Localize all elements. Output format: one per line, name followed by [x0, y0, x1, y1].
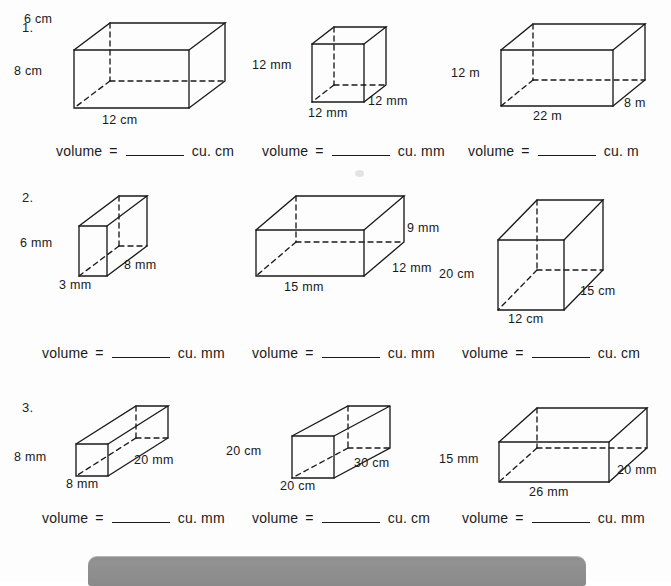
dim-label-depth: 12 mm [392, 261, 432, 275]
volume-unit: cu. m [604, 143, 639, 159]
figure-3c-rectangular-prism: 15 mm 26 mm 20 mm [493, 400, 653, 495]
dim-label-height: 6 mm [20, 236, 52, 250]
answer-blank-1b[interactable] [332, 142, 390, 156]
figure-2a-rectangular-prism: 6 mm 3 mm 8 mm [73, 190, 163, 295]
problem-number-2: 2. [22, 190, 33, 205]
answer-blank-3b[interactable] [322, 509, 380, 523]
bottom-gray-bar [88, 556, 586, 586]
dim-label-depth: 20 mm [617, 463, 657, 477]
answer-blank-1c[interactable] [538, 142, 596, 156]
volume-unit: cu. mm [388, 345, 435, 361]
volume-unit: cu. cm [192, 143, 234, 159]
dim-label-width: 3 mm [59, 278, 91, 292]
volume-word: volume [252, 345, 298, 361]
figure-2b-rectangular-prism: 9 mm 12 mm 15 mm [252, 192, 417, 287]
volume-unit: cu. mm [178, 345, 225, 361]
dim-label-width: 8 mm [66, 477, 98, 491]
dim-label-height: 15 mm [439, 452, 479, 466]
volume-unit: cu. mm [398, 143, 445, 159]
answer-blank-3c[interactable] [532, 509, 590, 523]
dim-label-height: 12 mm [252, 58, 292, 72]
volume-line-2b: volume = cu. mm [252, 344, 435, 361]
volume-line-1c: volume = cu. m [468, 142, 639, 159]
dim-label-width: 22 m [533, 109, 562, 123]
equals-sign: = [515, 345, 523, 361]
dim-label-height: 20 cm [226, 444, 262, 458]
dim-label-depth: 8 mm [124, 258, 156, 272]
dim-label-depth: 20 mm [134, 453, 174, 467]
volume-word: volume [462, 345, 508, 361]
volume-word: volume [42, 510, 88, 526]
dim-label-height: 20 cm [439, 267, 475, 281]
equals-sign: = [315, 143, 323, 159]
figure-1a-rectangular-prism: 6 cm 8 cm 12 cm [66, 18, 226, 118]
dim-label-depth: 8 m [624, 96, 646, 110]
volume-line-3a: volume = cu. mm [42, 509, 225, 526]
volume-line-2c: volume = cu. cm [462, 344, 640, 361]
volume-line-1b: volume = cu. mm [262, 142, 445, 159]
volume-word: volume [252, 510, 298, 526]
equals-sign: = [95, 345, 103, 361]
volume-line-1a: volume = cu. cm [56, 142, 234, 159]
figure-1c-rectangular-prism: 12 m 22 m 8 m [495, 18, 655, 118]
dim-label-width: 26 mm [529, 485, 569, 499]
dim-label-width: 15 mm [284, 280, 324, 294]
volume-line-3b: volume = cu. cm [252, 509, 430, 526]
volume-word: volume [42, 345, 88, 361]
volume-unit: cu. cm [598, 345, 640, 361]
answer-blank-2a[interactable] [112, 344, 170, 358]
answer-blank-2b[interactable] [322, 344, 380, 358]
figure-3b-rectangular-prism: 20 cm 20 cm 30 cm [286, 400, 416, 490]
equals-sign: = [305, 510, 313, 526]
volume-line-2a: volume = cu. mm [42, 344, 225, 361]
problem-number-3: 3. [22, 400, 33, 415]
dim-label-height: 8 mm [14, 450, 46, 464]
volume-unit: cu. cm [388, 510, 430, 526]
equals-sign: = [521, 143, 529, 159]
volume-word: volume [56, 143, 102, 159]
equals-sign: = [109, 143, 117, 159]
answer-blank-1a[interactable] [126, 142, 184, 156]
answer-blank-3a[interactable] [112, 509, 170, 523]
volume-word: volume [462, 510, 508, 526]
volume-unit: cu. mm [178, 510, 225, 526]
dim-label-height: 9 mm [407, 221, 439, 235]
dim-label-depth: 6 cm [24, 12, 52, 26]
equals-sign: = [515, 510, 523, 526]
volume-word: volume [468, 143, 514, 159]
figure-1b-cube: 12 mm 12 mm 12 mm [306, 22, 398, 112]
dim-label-width: 12 cm [508, 312, 544, 326]
figure-2c-rectangular-prism: 20 cm 12 cm 15 cm [492, 194, 617, 319]
dim-label-depth: 15 cm [580, 284, 616, 298]
dim-label-width: 20 cm [280, 479, 316, 493]
equals-sign: = [305, 345, 313, 361]
figure-3a-rectangular-prism: 8 mm 8 mm 20 mm [70, 400, 190, 490]
dim-label-depth: 30 cm [354, 456, 390, 470]
dim-label-height: 8 cm [14, 64, 42, 78]
answer-blank-2c[interactable] [532, 344, 590, 358]
volume-word: volume [262, 143, 308, 159]
dim-label-height: 12 m [451, 66, 480, 80]
equals-sign: = [95, 510, 103, 526]
dim-label-depth: 12 mm [368, 94, 408, 108]
volume-line-3c: volume = cu. mm [462, 509, 645, 526]
volume-unit: cu. mm [598, 510, 645, 526]
dim-label-width: 12 cm [102, 113, 138, 127]
paper-smudge [355, 170, 364, 177]
dim-label-width: 12 mm [308, 106, 348, 120]
